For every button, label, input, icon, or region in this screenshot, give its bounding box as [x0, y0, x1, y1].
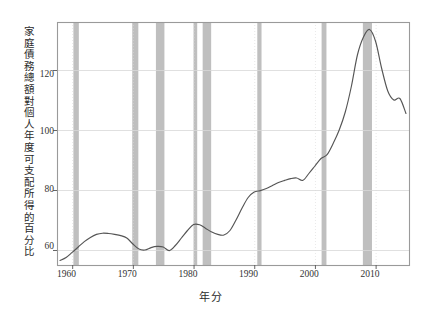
chart-figure: 家庭債務總額對個人年度可支配所得的百分比 120 100 80 60 1960 … [0, 0, 421, 321]
recession-band-5 [257, 22, 261, 265]
data-line-debt-ratio [60, 29, 406, 260]
recession-band-2 [156, 22, 164, 265]
axis-ticks [53, 71, 376, 270]
recession-band-0 [73, 22, 78, 265]
series-line-0 [60, 29, 406, 260]
plot-canvas [0, 0, 421, 321]
recession-band-7 [363, 22, 372, 265]
recession-band-6 [322, 22, 327, 265]
recession-bands [73, 22, 372, 265]
